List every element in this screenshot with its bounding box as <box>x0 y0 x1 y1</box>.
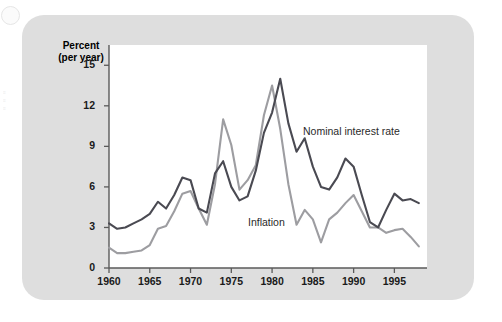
y-axis-tick-label: 0 <box>49 261 95 273</box>
x-axis-ticks <box>109 268 394 273</box>
y-axis-tick-label: 12 <box>49 99 95 111</box>
y-axis-tick-label: 6 <box>49 180 95 192</box>
series-annotation-nominal: Nominal interest rate <box>303 125 400 137</box>
x-axis-tick-label: 1970 <box>168 275 214 287</box>
y-axis-ticks <box>104 65 109 268</box>
series-annotation-inflation: Inflation <box>248 216 285 228</box>
x-axis-tick-label: 1985 <box>290 275 336 287</box>
x-axis-tick-label: 1990 <box>331 275 377 287</box>
y-axis-tick-label: 3 <box>49 220 95 232</box>
x-axis-tick-label: 1960 <box>86 275 132 287</box>
x-axis-tick-label: 1980 <box>249 275 295 287</box>
x-axis-tick-label: 1965 <box>127 275 173 287</box>
x-axis-tick-label: 1995 <box>371 275 417 287</box>
y-axis-tick-label: 9 <box>49 139 95 151</box>
figure-container: ≡≡≡ Percent (per year) 03691215 19601965… <box>0 0 502 322</box>
series-line-nominal <box>109 79 419 229</box>
chart-svg <box>0 0 502 322</box>
y-axis-tick-label: 15 <box>49 58 95 70</box>
x-axis-tick-label: 1975 <box>208 275 254 287</box>
